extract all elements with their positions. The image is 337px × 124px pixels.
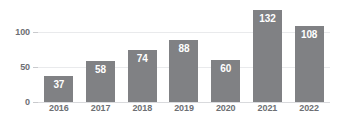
y-axis-tick-label: 50 (4, 63, 30, 72)
bar-slot: 108 (288, 4, 330, 102)
bar[interactable]: 74 (128, 50, 157, 102)
bar[interactable]: 60 (211, 60, 240, 102)
y-axis-tick-label: 0 (4, 98, 30, 107)
bar-value-label: 74 (128, 53, 157, 64)
bar-value-label: 58 (86, 64, 115, 75)
bar-slot: 37 (38, 4, 80, 102)
bar[interactable]: 88 (169, 40, 198, 102)
bar-slot: 132 (247, 4, 289, 102)
bar-value-label: 132 (253, 13, 282, 24)
bar-value-label: 88 (169, 43, 198, 54)
bar[interactable]: 37 (44, 76, 73, 102)
y-axis-tick-label: 100 (4, 28, 30, 37)
bar[interactable]: 108 (295, 26, 324, 102)
bar[interactable]: 132 (253, 10, 282, 102)
x-axis-tick-label: 2017 (80, 104, 122, 113)
bar-series: 3758748860132108 (38, 4, 330, 102)
x-axis: 2016201720182019202020212022 (38, 104, 330, 118)
x-axis-tick-label: 2021 (247, 104, 289, 113)
bar[interactable]: 58 (86, 61, 115, 102)
bar-slot: 74 (121, 4, 163, 102)
bar-value-label: 37 (44, 79, 73, 90)
x-axis-tick-label: 2022 (288, 104, 330, 113)
bar-value-label: 60 (211, 63, 240, 74)
x-axis-tick-label: 2019 (163, 104, 205, 113)
bar-slot: 88 (163, 4, 205, 102)
bar-value-label: 108 (295, 29, 324, 40)
bar-chart: 0 50 100 3758748860132108 20162017201820… (0, 0, 337, 124)
x-axis-tick-label: 2018 (121, 104, 163, 113)
bar-slot: 58 (80, 4, 122, 102)
x-axis-tick-label: 2016 (38, 104, 80, 113)
x-axis-tick-label: 2020 (205, 104, 247, 113)
bar-slot: 60 (205, 4, 247, 102)
